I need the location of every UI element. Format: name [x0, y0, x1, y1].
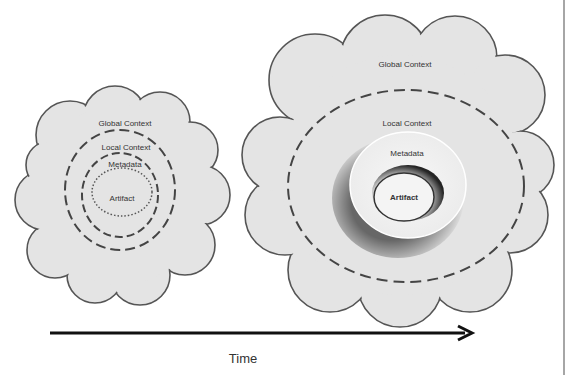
small-global-context-label: Global Context	[99, 119, 153, 128]
large-local-context-label: Local Context	[383, 119, 433, 128]
diagram-canvas: Global Context Local Context Metadata Ar…	[0, 0, 571, 375]
large-cloud: Global Context Local Context Metadata Ar…	[242, 15, 554, 327]
small-cloud: Global Context Local Context Metadata Ar…	[15, 86, 230, 305]
large-artifact-label: Artifact	[390, 193, 418, 202]
large-metadata-label: Metadata	[390, 149, 424, 158]
small-local-context-label: Local Context	[102, 143, 152, 152]
time-axis: Time	[50, 326, 472, 366]
large-global-context-label: Global Context	[379, 60, 433, 69]
small-artifact-label: Artifact	[110, 194, 136, 203]
time-axis-label: Time	[229, 351, 257, 366]
